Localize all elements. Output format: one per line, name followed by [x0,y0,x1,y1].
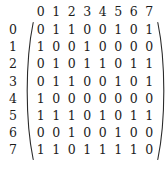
matrix-cell-6-6: 0 [126,124,142,141]
matrix-cell-2-6: 1 [126,55,142,72]
matrix-figure: 0 1 2 3 4 5 6 7 0 0 1 1 0 0 1 0 1 [0,0,168,181]
matrix-table: 0 1 2 3 4 5 6 7 0 0 1 1 0 0 1 0 1 [0,3,164,159]
matrix-cell-4-4: 0 [95,90,111,107]
matrix-cell-5-1: 1 [49,107,65,124]
bracket-spacer-right [157,73,164,90]
bracket-spacer-left [26,90,33,107]
matrix-cell-7-7: 0 [142,141,158,158]
matrix-cell-0-6: 0 [126,21,142,38]
bracket-spacer-left [26,38,33,55]
row-header-2: 2 [0,55,26,72]
column-header-5: 5 [111,3,127,21]
matrix-cell-4-1: 0 [49,90,65,107]
bracket-spacer-left [26,55,33,72]
matrix-cell-7-3: 1 [80,141,96,158]
matrix-cell-1-2: 0 [64,38,80,55]
matrix-cell-6-0: 0 [33,124,49,141]
matrix-cell-1-6: 0 [126,38,142,55]
column-header-2: 2 [64,3,80,21]
matrix-cell-1-0: 1 [33,38,49,55]
matrix-cell-5-3: 0 [80,107,96,124]
column-header-6: 6 [126,3,142,21]
matrix-cell-5-5: 0 [111,107,127,124]
matrix-cell-7-4: 1 [95,141,111,158]
matrix-cell-3-2: 1 [64,73,80,90]
matrix-cell-3-6: 0 [126,73,142,90]
matrix-cell-6-2: 1 [64,124,80,141]
matrix-cell-4-3: 0 [80,90,96,107]
matrix-cell-2-1: 1 [49,55,65,72]
bracket-spacer-left [26,141,33,158]
matrix-cell-1-4: 0 [95,38,111,55]
matrix-cell-6-3: 0 [80,124,96,141]
bracket-spacer-left [26,107,33,124]
row-header-5: 5 [0,107,26,124]
matrix-cell-6-7: 0 [142,124,158,141]
row-header-3: 3 [0,73,26,90]
bracket-spacer-right [157,3,164,21]
matrix-row: 5 1 1 1 0 1 0 1 1 [0,107,164,124]
matrix-cell-5-6: 1 [126,107,142,124]
matrix-row: 4 1 0 0 0 0 0 0 0 [0,90,164,107]
matrix-cell-6-1: 0 [49,124,65,141]
matrix-cell-7-1: 1 [49,141,65,158]
matrix-cell-0-0: 0 [33,21,49,38]
matrix-cell-1-5: 0 [111,38,127,55]
matrix-cell-0-3: 0 [80,21,96,38]
matrix-cell-2-2: 0 [64,55,80,72]
column-header-3: 3 [80,3,96,21]
matrix-row: 0 0 1 1 0 0 1 0 1 [0,21,164,38]
bracket-spacer-left [26,3,33,21]
matrix-cell-1-1: 0 [49,38,65,55]
matrix-cell-7-2: 0 [64,141,80,158]
matrix-cell-7-0: 1 [33,141,49,158]
bracket-spacer-left [26,124,33,141]
matrix-cell-2-5: 0 [111,55,127,72]
matrix-row: 1 1 0 0 1 0 0 0 0 [0,38,164,55]
matrix-cell-0-4: 0 [95,21,111,38]
matrix-cell-5-4: 1 [95,107,111,124]
matrix-cell-3-4: 0 [95,73,111,90]
row-header-1: 1 [0,38,26,55]
matrix-cell-5-2: 1 [64,107,80,124]
matrix-cell-7-5: 1 [111,141,127,158]
matrix-cell-0-2: 1 [64,21,80,38]
matrix-cell-4-5: 0 [111,90,127,107]
row-header-4: 4 [0,90,26,107]
matrix-cell-3-3: 0 [80,73,96,90]
bracket-spacer-right [157,90,164,107]
matrix-cell-3-7: 1 [142,73,158,90]
bracket-spacer-left [26,21,33,38]
matrix-cell-0-1: 1 [49,21,65,38]
column-header-1: 1 [49,3,65,21]
matrix-row: 3 0 1 1 0 0 1 0 1 [0,73,164,90]
matrix-cell-3-0: 0 [33,73,49,90]
bracket-spacer-right [157,55,164,72]
matrix-cell-2-4: 1 [95,55,111,72]
matrix-cell-2-0: 0 [33,55,49,72]
column-header-0: 0 [33,3,49,21]
bracket-spacer-left [26,73,33,90]
matrix-cell-0-7: 1 [142,21,158,38]
column-header-7: 7 [142,3,158,21]
matrix-cell-1-7: 0 [142,38,158,55]
matrix-cell-2-7: 1 [142,55,158,72]
matrix-cell-7-6: 1 [126,141,142,158]
matrix-cell-6-5: 1 [111,124,127,141]
matrix-cell-1-3: 1 [80,38,96,55]
matrix-cell-4-0: 1 [33,90,49,107]
matrix-row: 6 0 0 1 0 0 1 0 0 [0,124,164,141]
matrix-cell-6-4: 0 [95,124,111,141]
matrix-cell-4-6: 0 [126,90,142,107]
matrix-cell-0-5: 1 [111,21,127,38]
bracket-spacer-right [157,141,164,158]
row-header-6: 6 [0,124,26,141]
matrix-cell-5-7: 1 [142,107,158,124]
matrix-cell-5-0: 1 [33,107,49,124]
matrix-cell-3-1: 1 [49,73,65,90]
matrix-row: 2 0 1 0 1 1 0 1 1 [0,55,164,72]
matrix-cell-4-7: 0 [142,90,158,107]
row-header-7: 7 [0,141,26,158]
bracket-spacer-right [157,107,164,124]
bracket-spacer-right [157,21,164,38]
